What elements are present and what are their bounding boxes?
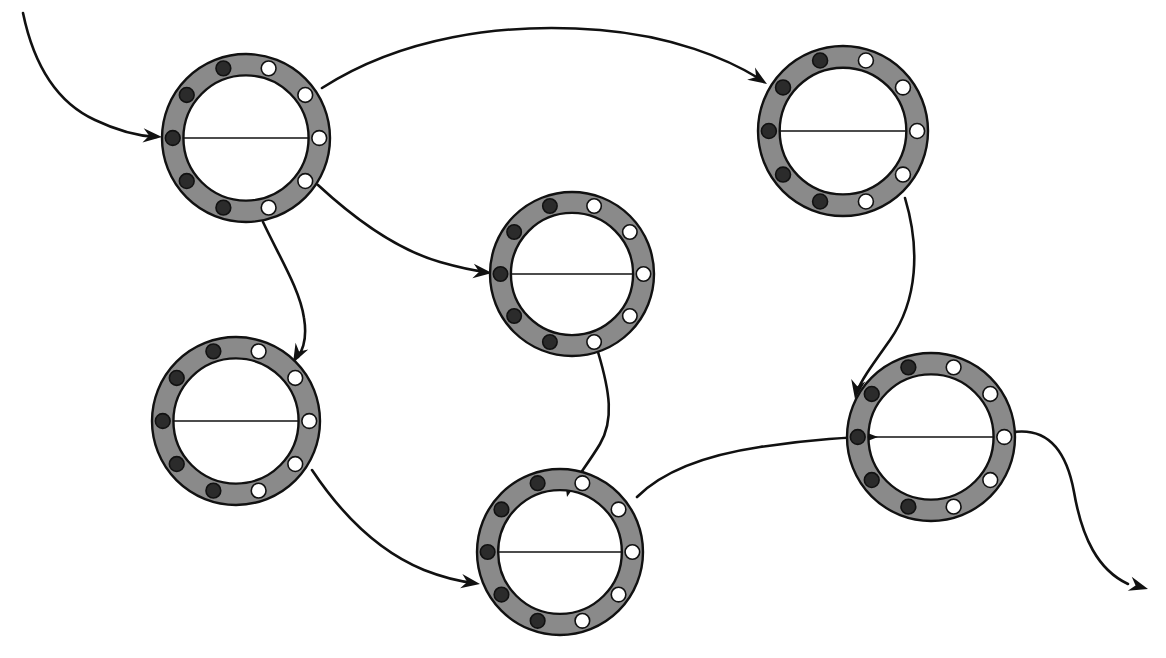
ring-dot-white-7[interactable]: [261, 200, 276, 215]
ring-dot-dark-2[interactable]: [216, 61, 231, 76]
diagram-canvas: [0, 0, 1166, 658]
ring-dot-white-6[interactable]: [288, 457, 303, 472]
ring-dot-dark-8[interactable]: [530, 614, 545, 629]
ring-dot-white-5[interactable]: [997, 430, 1012, 445]
ring-dot-dark-0[interactable]: [165, 131, 180, 146]
ring-dot-dark-1[interactable]: [169, 371, 184, 386]
ring-dot-dark-0[interactable]: [493, 267, 507, 281]
ring-dot-white-6[interactable]: [895, 167, 910, 182]
ring-dot-dark-1[interactable]: [776, 80, 791, 95]
ring-dot-dark-1[interactable]: [494, 502, 509, 517]
ring-dot-dark-1[interactable]: [507, 225, 521, 239]
ring-dot-dark-1[interactable]: [864, 387, 879, 402]
ring-dot-white-3[interactable]: [251, 344, 266, 359]
ring-dot-dark-9[interactable]: [179, 174, 194, 189]
ring-dot-dark-2[interactable]: [813, 53, 828, 68]
ring-graph-svg: [0, 0, 1166, 658]
ring-dot-white-3[interactable]: [587, 199, 601, 213]
ring-dot-white-7[interactable]: [251, 483, 266, 498]
ring-dot-white-7[interactable]: [587, 335, 601, 349]
ring-dot-white-7[interactable]: [858, 194, 873, 209]
ring-dot-white-4[interactable]: [298, 88, 313, 103]
ring-dot-white-5[interactable]: [302, 414, 317, 429]
ring-dot-dark-8[interactable]: [901, 499, 916, 514]
ring-dot-dark-9[interactable]: [494, 587, 509, 602]
ring-dot-dark-8[interactable]: [813, 194, 828, 209]
ring-dot-white-4[interactable]: [983, 387, 998, 402]
ring-dot-white-6[interactable]: [623, 309, 637, 323]
ring-dot-white-5[interactable]: [625, 545, 640, 560]
ring-dot-dark-2[interactable]: [901, 360, 916, 375]
ring-dot-dark-9[interactable]: [507, 309, 521, 323]
ring-dot-white-3[interactable]: [575, 476, 590, 491]
ring-dot-dark-0[interactable]: [155, 414, 170, 429]
ring-dot-dark-8[interactable]: [543, 335, 557, 349]
ring-dot-white-3[interactable]: [858, 53, 873, 68]
ring-dot-dark-0[interactable]: [480, 545, 495, 560]
ring-dot-dark-0[interactable]: [850, 430, 865, 445]
ring-dot-white-6[interactable]: [611, 587, 626, 602]
ring-dot-white-4[interactable]: [623, 225, 637, 239]
ring-dot-white-6[interactable]: [983, 473, 998, 488]
ring-dot-white-3[interactable]: [261, 61, 276, 76]
ring-dot-white-5[interactable]: [910, 124, 925, 139]
ring-dot-dark-1[interactable]: [179, 88, 194, 103]
ring-dot-white-3[interactable]: [946, 360, 961, 375]
ring-dot-dark-9[interactable]: [864, 473, 879, 488]
ring-dot-dark-2[interactable]: [543, 199, 557, 213]
ring-dot-white-5[interactable]: [312, 131, 327, 146]
ring-dot-dark-2[interactable]: [530, 476, 545, 491]
ring-dot-white-4[interactable]: [288, 371, 303, 386]
ring-dot-dark-8[interactable]: [216, 200, 231, 215]
ring-dot-dark-2[interactable]: [206, 344, 221, 359]
ring-dot-dark-9[interactable]: [169, 457, 184, 472]
ring-dot-white-4[interactable]: [611, 502, 626, 517]
ring-dot-white-7[interactable]: [946, 499, 961, 514]
ring-dot-white-7[interactable]: [575, 614, 590, 629]
ring-dot-white-4[interactable]: [895, 80, 910, 95]
ring-dot-white-6[interactable]: [298, 174, 313, 189]
ring-dot-dark-8[interactable]: [206, 483, 221, 498]
ring-dot-dark-0[interactable]: [761, 124, 776, 139]
ring-dot-white-5[interactable]: [636, 267, 650, 281]
ring-dot-dark-9[interactable]: [776, 167, 791, 182]
